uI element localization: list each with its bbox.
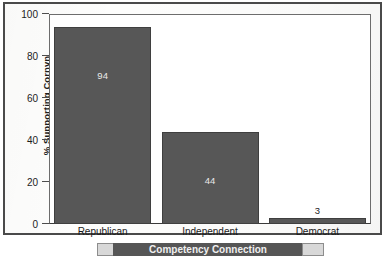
bar-value-label: 44	[163, 175, 258, 186]
caption-strip: Competency Connection	[113, 243, 303, 256]
y-axis-tick: 40	[42, 139, 49, 140]
bar: 94	[54, 27, 151, 224]
bar: 3	[269, 218, 366, 224]
caption-left-block	[97, 243, 114, 256]
y-axis-tick: 80	[42, 55, 49, 56]
y-axis-tick: 0	[42, 223, 49, 224]
x-axis-category-labels: RepublicanIndependentDemocrat	[49, 226, 371, 240]
y-axis-tick-label: 20	[27, 177, 38, 188]
plot-area: 020406080100 94443	[49, 14, 371, 224]
y-axis-tick-label: 100	[21, 9, 38, 20]
bar: 44	[162, 132, 259, 224]
figure-outer-frame: % Supporting Cornyn 020406080100 94443 R…	[3, 2, 382, 235]
x-axis-category-label: Democrat	[249, 226, 386, 237]
y-axis-tick: 100	[42, 13, 49, 14]
y-axis-tick-label: 60	[27, 93, 38, 104]
bar-value-label: 3	[270, 205, 365, 216]
bar-value-label: 94	[55, 70, 150, 81]
y-axis-tick-label: 40	[27, 135, 38, 146]
caption-text: Competency Connection	[113, 244, 303, 255]
figure-root: % Supporting Cornyn 020406080100 94443 R…	[0, 0, 388, 256]
y-axis-tick-label: 80	[27, 51, 38, 62]
caption-right-block	[302, 243, 324, 256]
bars-layer: 94443	[49, 14, 371, 224]
y-axis-tick: 60	[42, 97, 49, 98]
y-axis-tick: 20	[42, 181, 49, 182]
